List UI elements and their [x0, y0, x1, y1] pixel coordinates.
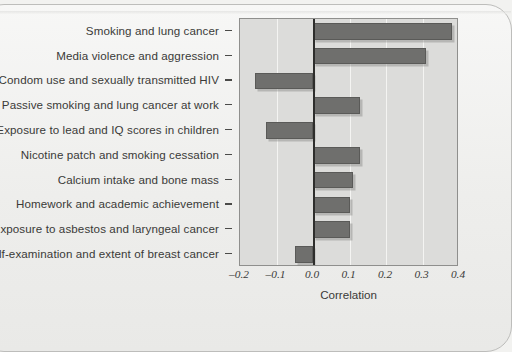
bar [255, 73, 313, 90]
category-label: Media violence and aggression [56, 49, 225, 62]
x-tick-label: –0.1 [266, 268, 286, 280]
category-label: Exposure to asbestos and laryngeal cance… [0, 222, 225, 235]
category-label: Smoking and lung cancer [86, 24, 225, 37]
category-axis: Smoking and lung cancerMedia violence an… [0, 18, 232, 266]
x-tick-label: 0.0 [305, 268, 319, 280]
bar-lane [240, 168, 457, 193]
bar-lane [240, 19, 457, 44]
bar-lane [240, 93, 457, 118]
bar [313, 147, 360, 164]
x-tick-label: –0.2 [229, 268, 249, 280]
category-label: Passive smoking and lung cancer at work [2, 98, 225, 111]
category-label-row: Media violence and aggression [0, 43, 232, 68]
plot-area [239, 18, 458, 266]
category-label: Homework and academic achievement [16, 197, 225, 210]
x-tick-label: 0.2 [378, 268, 392, 280]
category-tick-mark [225, 179, 232, 180]
x-axis-label: Correlation [239, 288, 458, 301]
category-label: Condom use and sexually transmitted HIV [0, 73, 225, 86]
category-label: Exposure to lead and IQ scores in childr… [0, 123, 225, 136]
x-tick-label: 0.3 [414, 268, 428, 280]
category-label-row: Exposure to asbestos and laryngeal cance… [0, 216, 232, 241]
category-label-row: Calcium intake and bone mass [0, 167, 232, 192]
category-tick-mark [225, 104, 232, 105]
category-label-row: Self-examination and extent of breast ca… [0, 241, 232, 266]
x-axis-ticks: –0.2–0.10.00.10.20.30.4 [239, 268, 458, 284]
bar [313, 48, 426, 65]
category-label-row: Passive smoking and lung cancer at work [0, 92, 232, 117]
category-tick-mark [225, 203, 232, 204]
category-label: Self-examination and extent of breast ca… [0, 247, 225, 260]
category-label-row: Nicotine patch and smoking cessation [0, 142, 232, 167]
bar-lane [240, 118, 457, 143]
category-label: Calcium intake and bone mass [58, 173, 225, 186]
category-label-row: Condom use and sexually transmitted HIV [0, 68, 232, 93]
bar-lane [240, 242, 457, 267]
category-label-row: Exposure to lead and IQ scores in childr… [0, 117, 232, 142]
bar [313, 97, 360, 114]
bar [313, 197, 350, 214]
bar [313, 23, 452, 40]
bar [313, 172, 353, 189]
category-tick-mark [225, 228, 232, 229]
bar [266, 122, 313, 139]
bar [295, 246, 313, 263]
category-label: Nicotine patch and smoking cessation [21, 148, 225, 161]
bar-lane [240, 69, 457, 94]
bar-lane [240, 44, 457, 69]
category-tick-mark [225, 253, 232, 254]
bar [313, 221, 350, 238]
bar-lane [240, 217, 457, 242]
x-tick-label: 0.4 [451, 268, 465, 280]
bar-lane [240, 143, 457, 168]
category-tick-mark [225, 129, 232, 130]
category-tick-mark [225, 55, 232, 56]
category-tick-mark [225, 154, 232, 155]
x-tick-label: 0.1 [341, 268, 355, 280]
bar-lane [240, 193, 457, 218]
category-tick-mark [225, 79, 232, 80]
zero-axis-line [313, 19, 315, 265]
category-tick-mark [225, 30, 232, 31]
category-label-row: Homework and academic achievement [0, 192, 232, 217]
category-label-row: Smoking and lung cancer [0, 18, 232, 43]
